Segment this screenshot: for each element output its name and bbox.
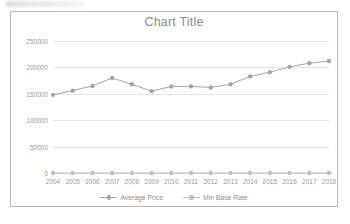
data-point-marker bbox=[71, 88, 75, 92]
x-axis-tick-label: 2018 bbox=[322, 178, 336, 185]
chart-title[interactable]: Chart Title bbox=[11, 15, 337, 29]
x-axis-tick-label: 2006 bbox=[85, 178, 99, 185]
x-axis-tick-label: 2013 bbox=[223, 178, 237, 185]
data-point-marker bbox=[189, 84, 193, 88]
data-point-marker bbox=[327, 171, 331, 175]
data-point-marker bbox=[90, 84, 94, 88]
x-axis-tick-label: 2009 bbox=[144, 178, 158, 185]
data-point-marker bbox=[307, 61, 311, 65]
legend-item[interactable]: Average Price bbox=[100, 194, 163, 201]
data-point-marker bbox=[169, 171, 173, 175]
y-axis-tick-label: 150000 bbox=[26, 90, 48, 97]
legend-marker-icon bbox=[183, 194, 200, 201]
legend-label: Average Price bbox=[120, 194, 163, 201]
data-point-marker bbox=[287, 65, 291, 69]
data-point-marker bbox=[268, 171, 272, 175]
data-point-marker bbox=[149, 171, 153, 175]
x-axis-tick-label: 2005 bbox=[65, 178, 79, 185]
data-point-marker bbox=[287, 171, 291, 175]
data-point-marker bbox=[209, 85, 213, 89]
x-axis-tick-label: 2014 bbox=[243, 178, 257, 185]
x-axis-tick-label: 2007 bbox=[105, 178, 119, 185]
x-axis-tick-label: 2004 bbox=[46, 178, 60, 185]
data-point-marker bbox=[169, 84, 173, 88]
data-point-marker bbox=[327, 59, 331, 63]
y-axis-tick-label: 100000 bbox=[26, 117, 48, 124]
data-point-marker bbox=[248, 74, 252, 78]
scan-artifact bbox=[6, 1, 84, 7]
x-axis-tick-label: 2010 bbox=[164, 178, 178, 185]
legend-label: Min Base Rate bbox=[203, 194, 248, 201]
data-point-marker bbox=[130, 171, 134, 175]
data-point-marker bbox=[228, 171, 232, 175]
data-point-marker bbox=[130, 82, 134, 86]
x-axis-tick-label: 2016 bbox=[282, 178, 296, 185]
x-axis-tick-label: 2017 bbox=[302, 178, 316, 185]
category-axis[interactable]: 2004200520062007200820092010201120122013… bbox=[53, 178, 329, 190]
x-axis-tick-label: 2012 bbox=[203, 178, 217, 185]
data-point-marker bbox=[71, 171, 75, 175]
data-point-marker bbox=[228, 82, 232, 86]
chart-legend[interactable]: Average PriceMin Base Rate bbox=[11, 194, 337, 201]
data-point-marker bbox=[248, 171, 252, 175]
data-point-marker bbox=[90, 171, 94, 175]
x-axis-tick-label: 2011 bbox=[184, 178, 198, 185]
y-axis-tick-label: 0 bbox=[44, 170, 48, 177]
data-point-marker bbox=[268, 70, 272, 74]
data-point-marker bbox=[51, 93, 55, 97]
legend-item[interactable]: Min Base Rate bbox=[183, 194, 248, 201]
y-axis-tick-label: 50000 bbox=[30, 143, 48, 150]
y-axis-tick-label: 250000 bbox=[26, 38, 48, 45]
data-point-marker bbox=[307, 171, 311, 175]
legend-marker-icon bbox=[100, 194, 117, 201]
data-point-marker bbox=[110, 76, 114, 80]
data-point-marker bbox=[189, 171, 193, 175]
x-axis-tick-label: 2015 bbox=[263, 178, 277, 185]
data-point-marker bbox=[51, 171, 55, 175]
data-point-marker bbox=[149, 89, 153, 93]
x-axis-tick-label: 2008 bbox=[125, 178, 139, 185]
data-point-marker bbox=[209, 171, 213, 175]
series-layer bbox=[53, 41, 329, 173]
y-axis-tick-label: 200000 bbox=[26, 64, 48, 71]
plot-area[interactable]: 050000100000150000200000250000 bbox=[53, 41, 329, 173]
data-point-marker bbox=[110, 171, 114, 175]
chart-container[interactable]: Chart Title 0500001000001500002000002500… bbox=[10, 11, 338, 207]
